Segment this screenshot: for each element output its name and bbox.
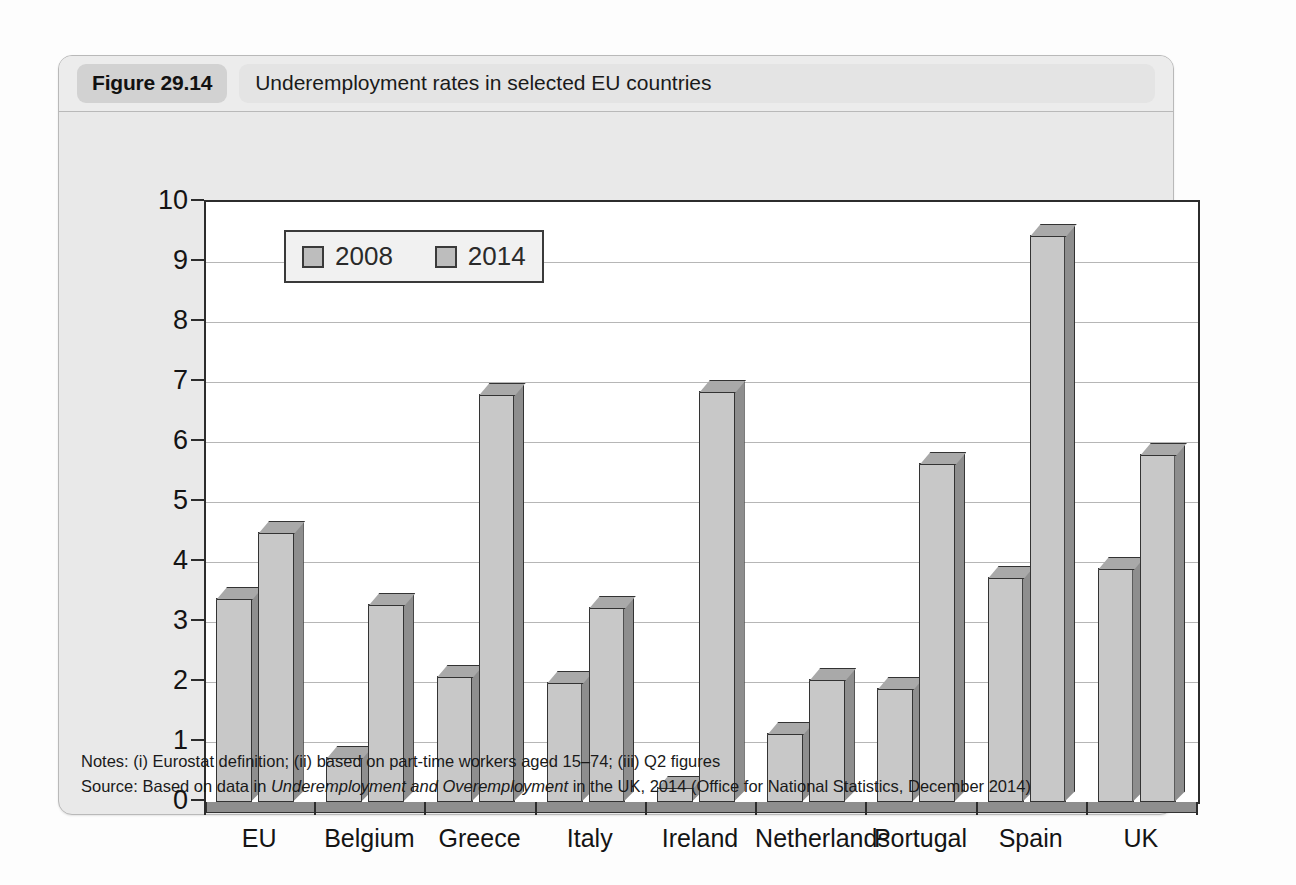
- legend-item-2014: 2014: [435, 241, 526, 272]
- y-axis-tick-mark: [191, 379, 204, 381]
- source-label: Source:: [81, 777, 138, 795]
- source-prefix: Based on data in: [142, 777, 270, 795]
- bar-side-face: [1064, 224, 1075, 802]
- y-axis-tick-label: 7: [148, 367, 188, 394]
- source-title: Underemployment and Overemployment: [271, 777, 568, 795]
- y-axis-tick-mark: [191, 619, 204, 621]
- y-axis-tick-label: 5: [148, 487, 188, 514]
- y-axis-tick-mark: [191, 439, 204, 441]
- y-axis-tick-label: 2: [148, 667, 188, 694]
- x-axis-category-label: Italy: [535, 826, 645, 851]
- legend-swatch-icon: [302, 246, 324, 268]
- y-axis-tick-label: 10: [148, 187, 188, 214]
- x-axis-category-label: Portugal: [865, 826, 975, 851]
- legend-label: 2014: [468, 241, 526, 272]
- source-line: Source: Based on data in Underemployment…: [81, 774, 1151, 800]
- y-axis-tick-mark: [191, 319, 204, 321]
- x-axis-category-label: EU: [204, 826, 314, 851]
- y-axis-tick-label: 6: [148, 427, 188, 454]
- y-axis-tick-mark: [191, 199, 204, 201]
- x-axis-category-label: Netherlands: [755, 826, 865, 851]
- bar-side-face: [513, 383, 524, 802]
- y-axis-tick-label: 3: [148, 607, 188, 634]
- chart-area: 2008 2014 012345678910 EUBelgiumGreeceIt…: [59, 112, 1173, 756]
- y-axis-tick-mark: [191, 559, 204, 561]
- bar: [699, 391, 735, 802]
- chart-legend: 2008 2014: [284, 230, 544, 283]
- y-axis-tick-label: 9: [148, 247, 188, 274]
- x-axis-tick-mark: [1196, 802, 1198, 815]
- plot-frame: 2008 2014: [204, 200, 1200, 804]
- y-axis-tick-label: 4: [148, 547, 188, 574]
- bar-side-face: [1174, 443, 1185, 802]
- x-axis-category-label: Belgium: [314, 826, 424, 851]
- figure-notes: Notes: (i) Eurostat definition; (ii) bas…: [59, 749, 1173, 814]
- notes-line: Notes: (i) Eurostat definition; (ii) bas…: [81, 749, 1151, 775]
- x-axis-category-label: UK: [1086, 826, 1196, 851]
- legend-swatch-icon: [435, 246, 457, 268]
- notes-label: Notes:: [81, 752, 129, 770]
- figure-title: Underemployment rates in selected EU cou…: [239, 64, 1155, 103]
- source-suffix: in the UK, 2014 (Office for National Sta…: [568, 777, 1031, 795]
- y-axis-tick-mark: [191, 259, 204, 261]
- y-axis-tick-mark: [191, 679, 204, 681]
- figure-header: Figure 29.14 Underemployment rates in se…: [59, 56, 1173, 112]
- page-root: Figure 29.14 Underemployment rates in se…: [0, 0, 1296, 885]
- x-axis-category-label: Greece: [424, 826, 534, 851]
- bar: [1030, 235, 1066, 802]
- bar-side-face: [734, 380, 745, 802]
- figure-number-badge: Figure 29.14: [77, 64, 227, 103]
- y-axis-tick-label: 8: [148, 307, 188, 334]
- y-axis-tick-mark: [191, 739, 204, 741]
- legend-label: 2008: [335, 241, 393, 272]
- notes-text: (i) Eurostat definition; (ii) based on p…: [133, 752, 720, 770]
- x-axis-category-label: Spain: [976, 826, 1086, 851]
- x-axis-category-label: Ireland: [645, 826, 755, 851]
- figure-card: Figure 29.14 Underemployment rates in se…: [58, 55, 1174, 815]
- bar: [479, 394, 515, 802]
- y-axis-tick-mark: [191, 499, 204, 501]
- legend-item-2008: 2008: [302, 241, 393, 272]
